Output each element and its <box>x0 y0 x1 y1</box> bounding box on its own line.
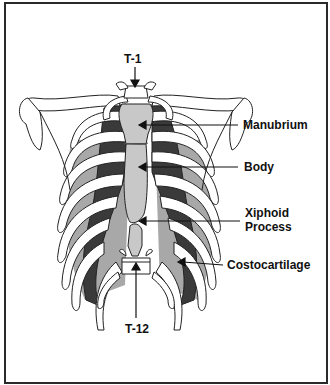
label-manubrium: Manubrium <box>243 118 308 132</box>
rib-cage-illustration <box>0 0 330 385</box>
label-t1: T-1 <box>124 52 141 66</box>
label-process: Process <box>245 220 292 234</box>
label-xiphoid: Xiphoid <box>245 206 289 220</box>
label-body: Body <box>244 160 274 174</box>
label-costocartilage: Costocartilage <box>227 258 310 272</box>
label-t12: T-12 <box>125 322 149 336</box>
